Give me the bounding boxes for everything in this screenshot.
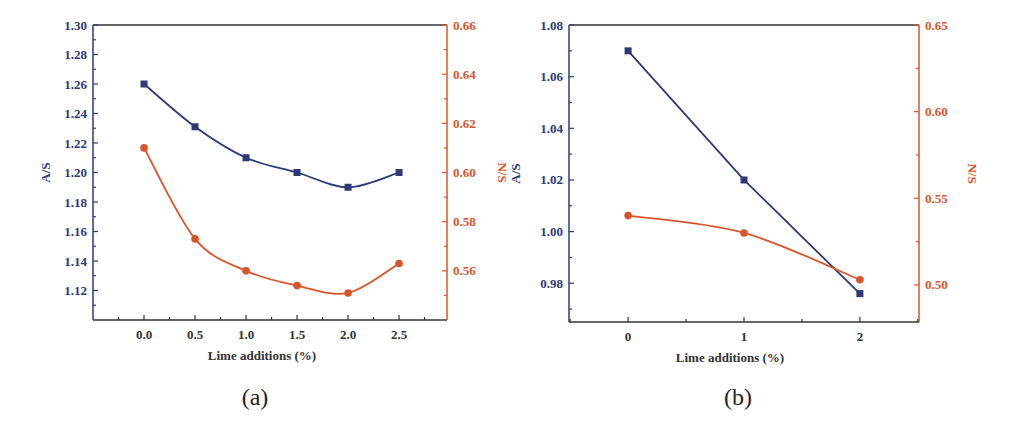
left-y-tick-label: 1.26 [64, 77, 87, 92]
square-marker [141, 81, 148, 88]
chart-panel-a: 1.121.141.161.181.201.221.241.261.281.30… [38, 18, 510, 411]
series-as [625, 47, 864, 297]
left-y-tick-label: 0.98 [540, 276, 563, 291]
right-y-tick-label: 0.50 [925, 277, 948, 292]
right-y-tick-label: 0.60 [925, 104, 948, 119]
left-y-tick-label: 1.00 [540, 224, 563, 239]
series-as [141, 81, 403, 191]
x-tick-label: 2.0 [340, 327, 356, 342]
square-marker [625, 47, 632, 54]
right-y-tick-label: 0.66 [453, 18, 476, 33]
square-marker [192, 123, 199, 130]
series-line [144, 84, 399, 187]
series-ns [624, 212, 863, 284]
x-tick-label: 2.5 [391, 327, 408, 342]
circle-marker [344, 289, 352, 297]
left-y-tick-label: 1.24 [64, 106, 87, 121]
right-y-tick-label: 0.58 [453, 214, 476, 229]
left-y-tick-label: 1.06 [540, 69, 563, 84]
left-y-tick-label: 1.28 [64, 47, 87, 62]
x-axis-label: Lime additions (%) [676, 350, 784, 365]
circle-marker [140, 144, 148, 152]
circle-marker [242, 267, 250, 275]
left-y-tick-label: 1.18 [64, 195, 87, 210]
left-y-tick-label: 1.04 [540, 121, 563, 136]
left-y-tick-label: 1.16 [64, 224, 87, 239]
left-y-tick-label: 1.12 [64, 283, 87, 298]
x-tick-label: 0.5 [187, 327, 204, 342]
left-y-tick-label: 1.22 [64, 136, 87, 151]
right-y-tick-label: 0.55 [925, 191, 948, 206]
x-tick-label: 2 [857, 329, 864, 344]
x-tick-label: 0.0 [136, 327, 152, 342]
left-y-tick-label: 1.08 [540, 18, 563, 33]
square-marker [345, 184, 352, 191]
circle-marker [395, 260, 403, 268]
circle-marker [856, 276, 864, 284]
right-y-tick-label: 0.56 [453, 263, 476, 278]
series-ns [140, 144, 403, 297]
x-tick-label: 0 [625, 329, 632, 344]
right-y-tick-label: 0.62 [453, 116, 476, 131]
right-y-tick-label: 0.65 [925, 18, 948, 33]
left-y-tick-label: 1.02 [540, 172, 563, 187]
panel-caption: (a) [242, 384, 269, 410]
x-tick-label: 1.0 [238, 327, 254, 342]
square-marker [741, 176, 748, 183]
series-line [628, 216, 860, 280]
square-marker [856, 290, 863, 297]
square-marker [243, 154, 250, 161]
circle-marker [740, 229, 748, 237]
left-y-axis-label: A/S [38, 162, 53, 182]
chart-panel-b: 0.981.001.021.041.061.080.500.550.600.65… [508, 18, 980, 411]
right-y-tick-label: 0.60 [453, 165, 476, 180]
circle-marker [624, 212, 632, 220]
figure: 1.121.141.161.181.201.221.241.261.281.30… [0, 0, 1013, 426]
panel-caption: (b) [724, 384, 752, 410]
left-y-tick-label: 1.14 [64, 254, 87, 269]
right-y-axis-label: N/S [965, 163, 980, 183]
x-axis-label: Lime additions (%) [208, 348, 316, 363]
series-line [144, 148, 399, 294]
left-y-tick-label: 1.20 [64, 165, 87, 180]
square-marker [396, 169, 403, 176]
series-line [628, 51, 860, 294]
circle-marker [191, 235, 199, 243]
left-y-axis-label: A/S [508, 163, 523, 183]
right-y-tick-label: 0.64 [453, 67, 476, 82]
x-tick-label: 1 [741, 329, 748, 344]
x-tick-label: 1.5 [289, 327, 306, 342]
circle-marker [293, 282, 301, 290]
left-y-tick-label: 1.30 [64, 18, 87, 33]
square-marker [294, 169, 301, 176]
